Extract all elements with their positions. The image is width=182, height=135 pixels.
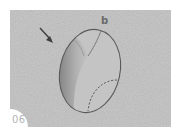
- point-label-b: b: [101, 15, 108, 26]
- step-number: 06: [12, 114, 26, 125]
- illustration-frame: b 06: [0, 0, 182, 135]
- paper-background: [10, 10, 171, 127]
